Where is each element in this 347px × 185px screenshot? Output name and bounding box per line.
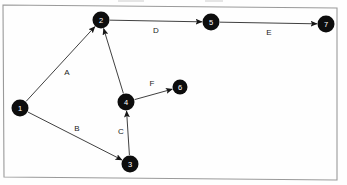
node-7-label: 7 bbox=[324, 20, 328, 29]
edge-label-c: C bbox=[118, 127, 124, 136]
node-1-label: 1 bbox=[18, 104, 22, 113]
node-7[interactable]: 7 bbox=[318, 16, 335, 33]
node-3[interactable]: 3 bbox=[122, 156, 139, 173]
node-3-label: 3 bbox=[128, 160, 132, 169]
nodes-group: 1 2 3 4 5 6 7 bbox=[12, 12, 335, 173]
node-4-label: 4 bbox=[124, 98, 128, 107]
node-2[interactable]: 2 bbox=[93, 12, 110, 29]
edge-label-e: E bbox=[266, 28, 271, 37]
edges-group bbox=[26, 20, 317, 160]
node-5-label: 5 bbox=[209, 18, 213, 27]
node-2-label: 2 bbox=[99, 16, 103, 25]
node-4[interactable]: 4 bbox=[118, 94, 135, 111]
edge-label-a: A bbox=[64, 68, 70, 77]
edge-line-b bbox=[28, 112, 122, 160]
edge-label-d: D bbox=[153, 26, 159, 35]
edge-line-f bbox=[135, 89, 173, 99]
node-1[interactable]: 1 bbox=[12, 100, 29, 117]
scan-smudge-left bbox=[118, 0, 144, 2]
scanned-figure-canvas: A B C D E F 1 2 3 4 bbox=[0, 0, 347, 185]
edge-label-b: B bbox=[74, 124, 79, 133]
edge-line-4-2 bbox=[104, 29, 124, 94]
graph-diagram: A B C D E F 1 2 3 4 bbox=[0, 0, 347, 185]
page-frame bbox=[3, 5, 337, 180]
edge-label-f: F bbox=[150, 79, 155, 88]
node-6-label: 6 bbox=[178, 83, 182, 92]
edge-labels-group: A B C D E F bbox=[64, 26, 271, 136]
edge-line-d bbox=[110, 20, 202, 22]
node-5[interactable]: 5 bbox=[203, 14, 220, 31]
scan-smudge-right bbox=[205, 0, 223, 2]
node-6[interactable]: 6 bbox=[173, 80, 188, 95]
edge-line-c bbox=[127, 111, 130, 155]
edge-line-e bbox=[220, 22, 317, 24]
edge-line-a bbox=[26, 27, 95, 102]
